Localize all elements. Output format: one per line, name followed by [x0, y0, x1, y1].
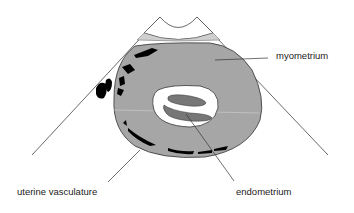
uterine-vasculature-label: uterine vasculature: [17, 186, 97, 197]
vasculature-leader: [108, 150, 140, 182]
endometrial-cavity: [153, 86, 219, 128]
uterus-ultrasound-diagram: [0, 0, 354, 213]
myometrium-label: myometrium: [276, 50, 328, 61]
endometrium-label: endometrium: [236, 186, 291, 197]
